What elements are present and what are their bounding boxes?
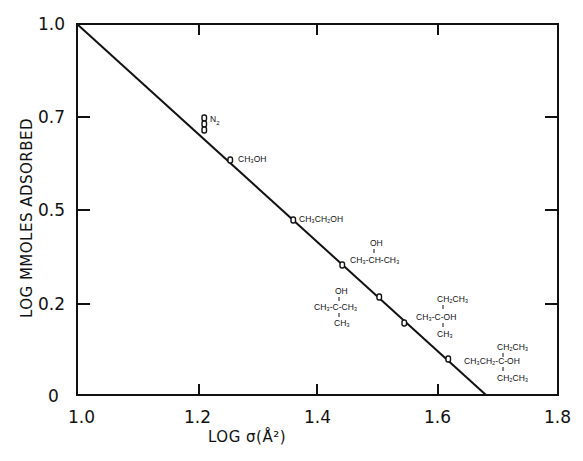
svg-text:CH₂CH₃: CH₂CH₃: [497, 373, 528, 383]
marker-tert-butanol: [377, 294, 382, 300]
svg-text:CH₂CH₃: CH₂CH₃: [497, 342, 528, 352]
svg-text:OH: OH: [370, 238, 383, 248]
marker-n2: [202, 115, 207, 121]
y-tick-label: 0.5: [38, 200, 65, 220]
label-n2: N2: [210, 114, 220, 126]
marker-n2: [202, 121, 207, 127]
x-ticks-top: [199, 24, 438, 35]
x-axis-title: LOG σ(Å²): [208, 427, 286, 446]
y-ticks-left: [77, 117, 90, 304]
label-methylpentanol: CH₂CH₃ CH₃CH₂-C-OH CH₂CH₃: [464, 342, 528, 383]
label-methylbutanol: CH₂CH₃ CH₃-C-OH CH₃: [416, 294, 468, 339]
marker-methanol: [228, 157, 233, 163]
x-tick-label: 1.4: [304, 407, 331, 427]
svg-text:CH₃-CH-CH₃: CH₃-CH-CH₃: [350, 255, 399, 265]
svg-text:CH₃: CH₃: [334, 318, 350, 328]
y-tick-label: 0.7: [38, 107, 65, 127]
fit-line: [77, 24, 486, 395]
label-isopropanol: OH CH₃-CH-CH₃: [350, 238, 399, 265]
svg-text:OH: OH: [335, 286, 348, 296]
adsorption-chart: 1.0 1.2 1.4 1.6 1.8 1.0 0.7 0.5 0.2 0 LO…: [0, 0, 583, 461]
marker-n2: [202, 127, 207, 133]
x-tick-label: 1.0: [68, 407, 95, 427]
data-markers: [202, 115, 451, 362]
marker-methylbutanol: [402, 320, 407, 326]
svg-text:CH₃-C-CH₃: CH₃-C-CH₃: [314, 302, 357, 312]
y-ticks-right: [545, 117, 558, 304]
y-tick-label: 0: [48, 386, 59, 406]
label-methanol: CH₃OH: [238, 154, 267, 164]
marker-ethanol: [291, 217, 296, 223]
y-tick-label: 1.0: [38, 14, 65, 34]
label-tert-butanol: OH CH₃-C-CH₃ CH₃: [314, 286, 357, 328]
y-tick-label: 0.2: [38, 294, 65, 314]
svg-text:CH₃CH₂-C-OH: CH₃CH₂-C-OH: [464, 356, 520, 366]
label-ethanol: CH₃CH₂OH: [299, 214, 343, 224]
svg-text:CH₃-C-OH: CH₃-C-OH: [416, 312, 456, 322]
marker-isopropanol: [340, 262, 345, 268]
x-tick-label: 1.6: [424, 407, 451, 427]
x-ticks-bottom: [199, 384, 438, 395]
marker-methylpentanol: [446, 356, 451, 362]
x-tick-label: 1.8: [544, 407, 571, 427]
svg-text:CH₂CH₃: CH₂CH₃: [437, 294, 468, 304]
svg-text:CH₃: CH₃: [437, 329, 453, 339]
plot-frame: [77, 24, 558, 395]
x-tick-label: 1.2: [184, 407, 211, 427]
y-axis-title: LOG MMOLES ADSORBED: [18, 118, 36, 318]
